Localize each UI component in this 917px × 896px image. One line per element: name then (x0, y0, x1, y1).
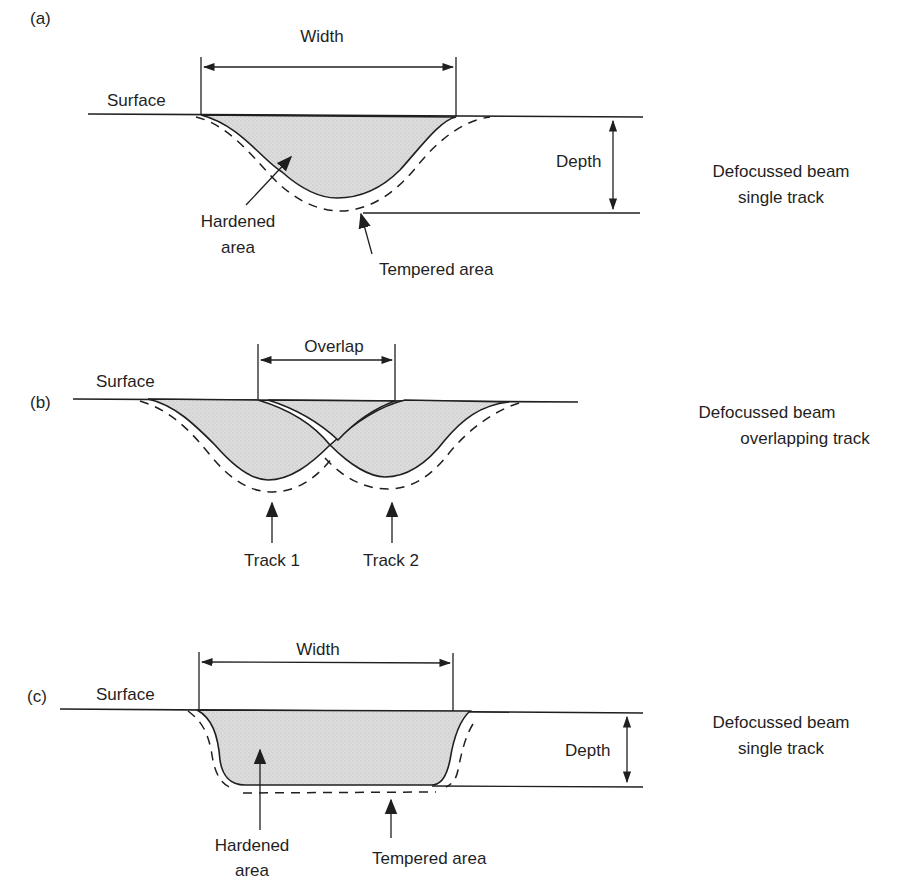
hardened-area-shape (197, 710, 470, 785)
depth-baseline (432, 786, 643, 787)
hardened-label-line2: area (221, 238, 256, 257)
caption-line2: overlapping track (740, 429, 870, 448)
depth-label: Depth (565, 741, 610, 760)
hardened-callout-arrow (246, 157, 291, 205)
track-1-label: Track 1 (244, 551, 300, 570)
surface-label: Surface (96, 685, 155, 704)
panel-b-label: (b) (30, 393, 51, 412)
hardened-area-shape (201, 115, 456, 198)
caption-line2: single track (738, 739, 824, 758)
panel-a-label: (a) (30, 9, 51, 28)
panel-c: (c) Width Surface Depth Hardened area Te… (27, 640, 850, 880)
overlap-label: Overlap (304, 337, 364, 356)
depth-label: Depth (556, 152, 601, 171)
caption-line1: Defocussed beam (698, 403, 835, 422)
caption-line2: single track (738, 188, 824, 207)
hardened-label-line1: Hardened (215, 836, 290, 855)
panel-b: (b) Overlap Surface Track 1 Track 2 Defo… (30, 337, 870, 570)
caption-line1: Defocussed beam (712, 713, 849, 732)
hardened-label-line2: area (235, 861, 270, 880)
tempered-label: Tempered area (379, 260, 494, 279)
width-label: Width (296, 640, 339, 659)
panel-c-label: (c) (27, 687, 47, 706)
width-dimension-arrow (202, 662, 450, 663)
panel-a: (a) Width Surface Depth Hardened area Te… (30, 9, 850, 279)
tempered-label: Tempered area (372, 849, 487, 868)
hardening-profiles-diagram: (a) Width Surface Depth Hardened area Te… (0, 0, 917, 896)
surface-label: Surface (96, 372, 155, 391)
tempered-callout-arrow (361, 214, 372, 254)
track-2-label: Track 2 (363, 551, 419, 570)
surface-label: Surface (107, 91, 166, 110)
tempered-boundary-bottom (243, 792, 436, 793)
caption-line1: Defocussed beam (712, 162, 849, 181)
width-label: Width (300, 27, 343, 46)
hardened-label-line1: Hardened (201, 212, 276, 231)
